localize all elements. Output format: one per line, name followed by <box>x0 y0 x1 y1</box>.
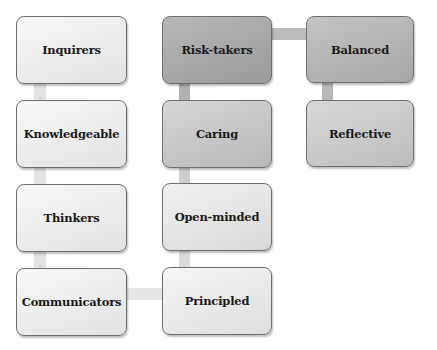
node-label: Open-minded <box>175 210 260 224</box>
node-label: Caring <box>196 127 238 141</box>
node-caring: Caring <box>162 100 272 168</box>
node-knowledgeable: Knowledgeable <box>16 100 127 168</box>
connector-caring-to-risk-takers <box>179 83 190 101</box>
node-label: Risk-takers <box>181 43 252 57</box>
connector-communicators-to-principled <box>126 288 163 300</box>
node-label: Thinkers <box>44 211 100 225</box>
node-label: Principled <box>185 294 250 308</box>
node-reflective: Reflective <box>306 100 414 167</box>
connector-principled-to-open-minded <box>179 250 190 268</box>
node-inquirers: Inquirers <box>16 16 127 84</box>
node-communicators: Communicators <box>16 268 127 336</box>
connector-risk-takers-to-balanced <box>271 28 307 40</box>
connector-inquirers-to-knowledgeable <box>34 83 46 101</box>
node-label: Knowledgeable <box>24 127 120 141</box>
node-principled: Principled <box>162 267 272 335</box>
node-label: Communicators <box>22 295 122 309</box>
node-risk-takers: Risk-takers <box>162 16 272 84</box>
node-label: Balanced <box>331 43 389 57</box>
connector-balanced-to-reflective <box>322 82 333 101</box>
node-open-minded: Open-minded <box>162 183 272 251</box>
node-label: Inquirers <box>42 43 101 57</box>
node-label: Reflective <box>329 127 391 141</box>
connector-open-minded-to-caring <box>179 167 190 184</box>
connector-thinkers-to-communicators <box>34 251 46 269</box>
node-balanced: Balanced <box>306 16 414 83</box>
node-thinkers: Thinkers <box>16 184 127 252</box>
connector-knowledgeable-to-thinkers <box>34 167 46 185</box>
